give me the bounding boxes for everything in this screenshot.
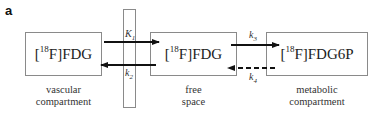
vascular-caption: vascular compartment [25,84,102,108]
free-space-caption: free space [150,84,237,108]
metabolic-caption: metabolic compartment [266,84,368,108]
k1-label: K1 [125,28,135,42]
k2-label: k2 [125,67,133,81]
k3-label: k3 [249,29,257,43]
k4-label: k4 [249,71,257,85]
